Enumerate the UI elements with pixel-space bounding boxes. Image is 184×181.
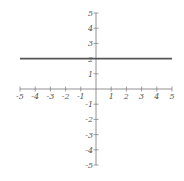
coordinate-plane: -5-4-3-2-11234554321-1-2-3-4-5 bbox=[0, 0, 184, 181]
x-tick-label: -3 bbox=[47, 92, 55, 101]
x-tick-label: 1 bbox=[109, 92, 114, 101]
x-tick-label: -5 bbox=[16, 92, 24, 101]
x-tick-label: 4 bbox=[153, 92, 159, 101]
x-tick-label: -4 bbox=[31, 92, 39, 101]
y-tick-label: -2 bbox=[85, 115, 93, 124]
y-tick-label: 4 bbox=[87, 24, 93, 33]
y-tick-label: 5 bbox=[88, 9, 93, 18]
y-tick-label: -4 bbox=[85, 146, 93, 155]
x-tick-label: -2 bbox=[62, 92, 70, 101]
y-tick-label: -1 bbox=[85, 100, 93, 109]
x-tick-label: 3 bbox=[139, 92, 144, 101]
y-tick-label: 3 bbox=[88, 39, 93, 48]
x-tick-label: -1 bbox=[77, 92, 85, 101]
x-tick-label: 2 bbox=[123, 92, 129, 101]
x-tick-label: 5 bbox=[169, 92, 174, 101]
y-tick-label: 1 bbox=[88, 70, 93, 79]
y-tick-label: -3 bbox=[85, 131, 93, 140]
y-tick-label: -5 bbox=[85, 161, 93, 170]
